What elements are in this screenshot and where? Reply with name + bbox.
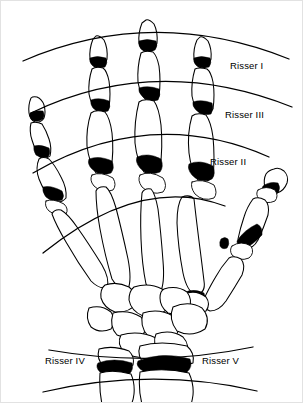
digit-middle-finger	[135, 20, 166, 293]
risser-label-1: Risser I	[230, 60, 263, 71]
risser-hand-figure: Risser I Risser III Risser II Risser IV …	[0, 0, 303, 403]
risser-label-2: Risser II	[210, 156, 246, 167]
risser-label-5: Risser V	[202, 355, 240, 366]
hand-skeleton-diagram: Risser I Risser III Risser II Risser IV …	[1, 1, 303, 403]
radius-bone	[137, 343, 193, 403]
risser-label-4: Risser IV	[45, 355, 85, 366]
ulna-bone	[97, 347, 134, 403]
risser-label-3: Risser III	[225, 109, 264, 120]
